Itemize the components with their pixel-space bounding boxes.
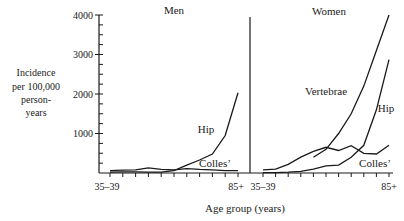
y-axis-label-line-4: years [25,107,46,118]
y-tick-label: 1000 [73,128,93,139]
y-axis-label-line-3: person- [21,94,51,105]
series-label-women-vertebrae: Vertebrae [305,85,347,97]
y-tick-label: 3000 [73,49,93,60]
y-tick-label: 4000 [73,10,93,21]
y-tick-label: 2000 [73,89,93,100]
panel-title-women: Women [312,5,346,17]
x-ticks [110,173,389,177]
x-tick-label-men-last: 85+ [228,181,244,192]
series-line-women-hip [263,60,389,173]
series-label-women-hip: Hip [378,102,395,114]
x-axis-label: Age group (years) [205,202,285,215]
panel-title-men: Men [164,4,185,16]
series-label-men-colles: Colles’ [199,157,231,169]
y-axis-label-line-1: Incidence [17,67,56,78]
y-axis-label-line-2: per 100,000 [12,81,60,92]
x-tick-label-women-last: 85+ [381,181,397,192]
series-label-women-colles: Colles’ [359,157,391,169]
y-axis-label: Incidence per 100,000 person- years [12,67,60,118]
fracture-incidence-chart: Incidence per 100,000 person- years 1000… [0,0,404,221]
x-tick-label-men-first: 35–39 [95,181,120,192]
series-label-men-hip: Hip [198,123,215,135]
x-tick-label-women-first: 35–39 [251,181,276,192]
